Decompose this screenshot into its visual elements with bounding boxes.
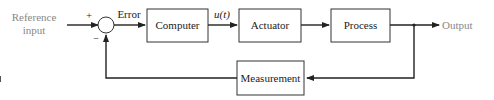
process-block-label: Process bbox=[344, 19, 378, 31]
edge-artifact bbox=[0, 76, 1, 82]
block-diagram: Reference input + − Error Computer u(t) … bbox=[0, 0, 494, 100]
summing-junction-icon bbox=[98, 17, 114, 33]
control-signal-label: u(t) bbox=[214, 8, 230, 21]
output-label: Output bbox=[442, 19, 473, 31]
measurement-block-label: Measurement bbox=[241, 72, 301, 84]
plus-sign: + bbox=[86, 10, 92, 21]
reference-input-label-line2: input bbox=[23, 24, 46, 36]
actuator-block-label: Actuator bbox=[251, 19, 290, 31]
reference-input-label-line1: Reference bbox=[12, 11, 57, 23]
minus-sign: − bbox=[93, 33, 99, 44]
computer-block-label: Computer bbox=[156, 19, 200, 31]
error-signal-label: Error bbox=[117, 8, 141, 20]
